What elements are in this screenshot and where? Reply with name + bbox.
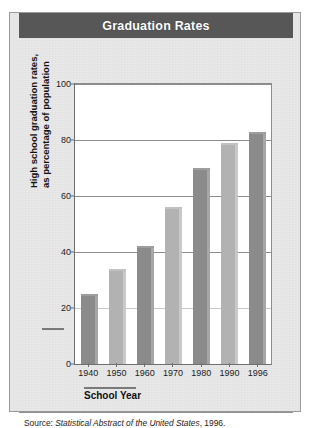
y-axis-title-line-2: as percentage of population: [40, 38, 52, 188]
y-tick-label-20: 20: [61, 303, 71, 313]
source-divider: [19, 412, 293, 413]
bar-1980: [193, 168, 210, 364]
x-axis-title-rule: [84, 387, 136, 389]
x-tick-label-1990: 1990: [216, 368, 244, 382]
x-tick-label-1940: 1940: [74, 368, 102, 382]
y-tick-label-40: 40: [61, 247, 71, 257]
bar-1970: [165, 207, 182, 364]
bar-series: [75, 84, 271, 364]
bar-1940: [81, 294, 98, 364]
y-axis-title: High school graduation rates, as percent…: [28, 38, 52, 188]
x-tick-label-1950: 1950: [102, 368, 130, 382]
source-publication: Statistical Abstract of the United State…: [55, 418, 199, 428]
y-axis-title-line-1: High school graduation rates,: [28, 38, 40, 188]
source-year: , 1996.: [200, 418, 226, 428]
x-tick-label-1970: 1970: [159, 368, 187, 382]
y-axis-title-rule: [42, 328, 64, 330]
plot-area-wrapper: High school graduation rates, as percent…: [10, 38, 300, 413]
x-tick-label-1980: 1980: [187, 368, 215, 382]
x-axis-tick-labels: 1940 1950 1960 1970 1980 1990 1996: [74, 368, 272, 382]
y-tick-label-100: 100: [56, 79, 71, 89]
source-label: Source:: [24, 418, 53, 428]
y-tick-label-0: 0: [66, 359, 71, 369]
figure-title-bar: Graduation Rates: [19, 13, 293, 38]
figure-panel: Graduation Rates High school graduation …: [9, 12, 301, 412]
bar-1990: [221, 143, 238, 364]
plot-area: 100 80 60 40 20 0: [74, 83, 272, 365]
bar-1950: [109, 269, 126, 364]
x-axis-title: School Year: [84, 390, 141, 401]
x-tickmarks: [74, 363, 272, 367]
source-note: Source: Statistical Abstract of the Unit…: [24, 418, 225, 428]
bar-1996: [249, 132, 266, 364]
y-tick-label-60: 60: [61, 191, 71, 201]
x-tick-label-1996: 1996: [244, 368, 272, 382]
figure-title: Graduation Rates: [102, 19, 209, 33]
y-tick-label-80: 80: [61, 135, 71, 145]
x-tick-label-1960: 1960: [131, 368, 159, 382]
bar-1960: [137, 246, 154, 364]
